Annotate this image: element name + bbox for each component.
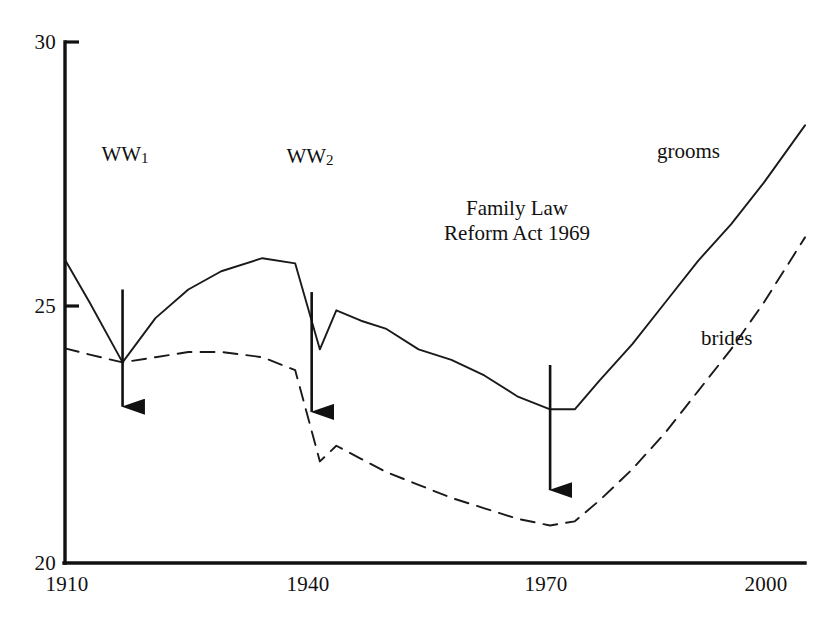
y-axis-tick-label-30: 30: [16, 30, 56, 55]
annotation-ww1-subscript: 1: [141, 150, 149, 166]
annotation-ww2-main: WW: [286, 144, 326, 168]
x-axis-tick-label-1970: 1970: [508, 572, 584, 597]
line-chart-canvas: [0, 0, 813, 628]
annotation-family-law-line2: Reform Act 1969: [417, 221, 617, 246]
x-axis-tick-label-1910: 1910: [29, 572, 105, 597]
x-axis-tick-label-1940: 1940: [270, 572, 346, 597]
annotation-label-family-law: Family Law Reform Act 1969: [417, 196, 617, 246]
chart-series-group: [65, 125, 805, 525]
series-line-brides: [65, 237, 805, 525]
y-axis-tick-label-25: 25: [16, 294, 56, 319]
x-axis-tick-label-2000: 2000: [728, 572, 804, 597]
annotation-family-law-line1: Family Law: [417, 196, 617, 221]
series-line-grooms: [65, 125, 805, 409]
annotation-label-ww2: WW2: [260, 144, 360, 169]
annotation-ww2-subscript: 2: [326, 152, 334, 168]
chart-axes: [64, 42, 805, 563]
chart-figure: 30 25 20 1910 1940 1970 2000 WW1 WW2 Fam…: [0, 0, 813, 628]
annotation-arrows-group: [123, 289, 551, 490]
annotation-label-ww1: WW1: [75, 142, 175, 167]
annotation-ww1-main: WW: [101, 142, 141, 166]
series-label-grooms: grooms: [657, 139, 720, 164]
series-label-brides: brides: [701, 326, 752, 351]
